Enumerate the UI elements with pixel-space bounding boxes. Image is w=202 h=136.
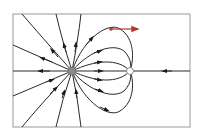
field-diagram (0, 0, 202, 136)
sink-charge-icon (127, 68, 134, 75)
field-lines-canvas (0, 0, 202, 136)
test-particle-icon (109, 27, 113, 31)
source-charge-icon (68, 67, 76, 75)
field-lines (13, 14, 190, 127)
